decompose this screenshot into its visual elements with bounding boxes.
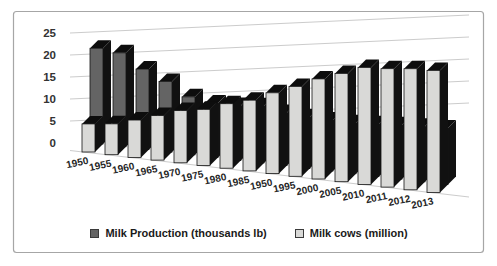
bar-milk-cows-1960-side — [141, 112, 149, 157]
legend-label-milk-production: Milk Production (thousands lb) — [105, 227, 266, 239]
y-tick-0: 0 — [50, 137, 56, 149]
y-tick-15: 15 — [43, 71, 56, 83]
bar-milk-cows-1985-front — [243, 100, 256, 171]
bar-milk-cows-1950-front — [266, 93, 279, 174]
bar-milk-cows-2013-front — [427, 70, 440, 192]
milk-production-swatch-icon — [90, 229, 99, 238]
bar-milk-cows-1950 — [266, 85, 287, 174]
bar-milk-cows-2011 — [381, 61, 402, 187]
y-tick-10: 10 — [43, 93, 56, 105]
bar-milk-cows-1965-front — [151, 116, 164, 160]
bar-milk-cows-1950-front — [82, 124, 95, 152]
bar-milk-cows-2013 — [427, 62, 448, 192]
y-tick-20: 20 — [43, 49, 56, 61]
bar-milk-cows-2012-front — [404, 69, 417, 190]
bar-milk-cows-1980-front — [220, 104, 233, 168]
bar-milk-cows-2005 — [335, 66, 356, 182]
bar-milk-cows-1950-side — [279, 85, 287, 174]
bar-milk-cows-1995 — [289, 78, 310, 176]
bar-milk-cows-1980-side — [233, 96, 241, 168]
bar-milk-cows-2010-front — [358, 68, 371, 185]
bar-milk-cows-2000 — [312, 71, 333, 179]
bar-milk-cows-1965-side — [164, 108, 172, 160]
bar-milk-cows-2005-side — [348, 66, 356, 182]
bar-milk-cows-1970-side — [187, 103, 195, 163]
bar-milk-cows-1995-side — [302, 78, 310, 176]
y-tick-25: 25 — [43, 27, 56, 39]
bar-milk-cows-2010-side — [371, 60, 379, 185]
legend-item-milk-production: Milk Production (thousands lb) — [90, 227, 266, 239]
bar-milk-cows-1955 — [105, 116, 126, 155]
bar-milk-production-2013-side — [448, 120, 456, 185]
chart-legend: Milk Production (thousands lb) Milk cows… — [14, 227, 484, 239]
bar-milk-cows-2012 — [404, 61, 425, 190]
chart-image: 0510152025195019551960196519701975198019… — [0, 0, 497, 266]
bar-milk-cows-1965 — [151, 108, 172, 160]
legend-item-milk-cows: Milk cows (million) — [295, 227, 408, 239]
bar-milk-cows-1995-front — [289, 86, 302, 176]
bar-milk-cows-1955-front — [105, 124, 118, 155]
legend-label-milk-cows: Milk cows (million) — [310, 227, 408, 239]
bar-milk-cows-1980 — [220, 96, 241, 168]
bar-milk-cows-2013-side — [440, 62, 448, 192]
bar-milk-cows-2000-side — [325, 71, 333, 179]
milk-cows-swatch-icon — [295, 229, 304, 238]
bar-milk-cows-1960 — [128, 112, 149, 157]
bar-milk-cows-1975-side — [210, 101, 218, 165]
bar-milk-cows-1960-front — [128, 120, 141, 157]
bar-milk-cows-2011-front — [381, 69, 394, 187]
bar-milk-cows-1975 — [197, 101, 218, 165]
bar-milk-cows-2010 — [358, 60, 379, 185]
bar-milk-cows-1970 — [174, 103, 195, 163]
y-tick-5: 5 — [50, 115, 57, 127]
bar-milk-cows-1950 — [82, 116, 103, 152]
bar-milk-cows-1975-front — [197, 109, 210, 165]
bar-milk-cows-1985-side — [256, 92, 264, 171]
bar-milk-cows-1985 — [243, 92, 264, 171]
bar-milk-cows-2011-side — [394, 61, 402, 187]
bar-milk-cows-2005-front — [335, 74, 348, 182]
bar-milk-cows-2012-side — [417, 61, 425, 190]
bar-milk-cows-1970-front — [174, 111, 187, 163]
bar-milk-cows-2000-front — [312, 79, 325, 179]
